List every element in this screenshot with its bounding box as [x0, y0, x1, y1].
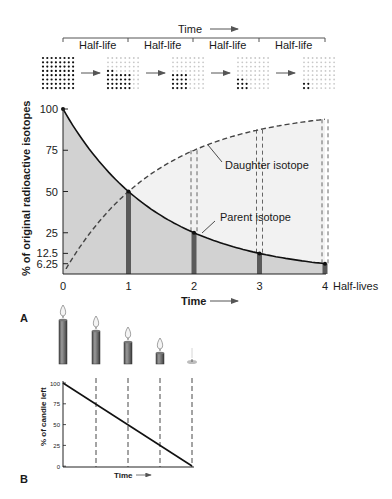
candle-chart: 1007550250 % of candle left Time B: [20, 378, 194, 485]
svg-text:50: 50: [46, 186, 58, 198]
diagram-canvas: Time Half-life Half-life Half-life Half-…: [0, 0, 392, 499]
half-life-bar: [257, 253, 262, 274]
dot-grid-4: [303, 57, 335, 89]
candle-x-axis-label: Time: [114, 471, 133, 480]
svg-text:3: 3: [256, 280, 262, 292]
parent-point: [258, 251, 262, 255]
svg-text:1: 1: [125, 280, 131, 292]
parent-point: [192, 231, 196, 235]
dot-grid-0: [42, 57, 74, 89]
x-axis-label: Time: [181, 295, 206, 307]
parent-point: [127, 190, 131, 194]
svg-text:4: 4: [322, 280, 328, 292]
daughter-isotope-label: Daughter isotope: [225, 159, 309, 171]
parent-point: [323, 262, 327, 266]
candle-y-ticks: 1007550250: [50, 381, 66, 470]
svg-text:25: 25: [53, 443, 60, 449]
dot-grid-1: [107, 57, 139, 89]
half-life-label-3: Half-life: [209, 39, 246, 51]
svg-text:100: 100: [40, 103, 58, 115]
svg-text:0: 0: [57, 464, 61, 470]
candle-icon: [59, 305, 67, 364]
dot-grid-3: [237, 57, 269, 89]
time-header-label: Time: [178, 23, 202, 35]
dot-grid-2: [172, 57, 204, 89]
half-life-bar: [192, 233, 197, 274]
svg-text:75: 75: [53, 401, 60, 407]
candle-line: [63, 383, 192, 466]
half-life-label-2: Half-life: [144, 39, 181, 51]
isotope-dot-grids: [42, 57, 335, 89]
x-ticks: 01234: [60, 280, 328, 292]
y-axis-label: % of original radioactive isotopes: [20, 101, 32, 276]
candle-y-axis-label: % of candle left: [39, 387, 48, 446]
svg-text:100: 100: [50, 381, 61, 387]
candles: [59, 305, 197, 364]
svg-text:50: 50: [53, 422, 60, 428]
half-life-bar: [126, 192, 131, 275]
time-header: Time Half-life Half-life Half-life Half-…: [63, 23, 325, 51]
decay-chart: 10075502512.56.25 01234 Half-lives Time …: [20, 101, 379, 324]
candle-icon: [156, 338, 164, 364]
candle-icon: [187, 348, 197, 364]
svg-text:75: 75: [46, 144, 58, 156]
half-life-label-4: Half-life: [275, 39, 312, 51]
x-axis-unit: Half-lives: [333, 280, 379, 292]
panel-a-label: A: [20, 312, 28, 324]
svg-text:25: 25: [46, 227, 58, 239]
svg-text:0: 0: [60, 280, 66, 292]
svg-text:6.25: 6.25: [37, 258, 58, 270]
parent-isotope-label: Parent isotope: [220, 211, 291, 223]
panel-b-label: B: [20, 473, 28, 485]
half-life-label-1: Half-life: [79, 39, 116, 51]
candle-icon: [92, 316, 100, 364]
candle-icon: [124, 327, 132, 364]
candle-dashed-guides: [96, 378, 192, 467]
svg-text:2: 2: [191, 280, 197, 292]
